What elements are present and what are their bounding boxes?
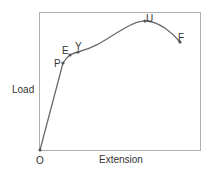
point-E	[68, 53, 71, 56]
x-axis-label: Extension	[99, 154, 143, 165]
origin-label: O	[36, 155, 44, 166]
plot-frame	[40, 13, 201, 151]
label-Y: Y	[75, 41, 82, 52]
point-P	[61, 61, 64, 64]
y-axis-label: Load	[12, 84, 34, 95]
load-extension-diagram: P E Y U F O Load Extension	[0, 0, 210, 172]
point-O	[38, 148, 41, 151]
label-F: F	[178, 32, 184, 43]
label-P: P	[54, 58, 61, 69]
label-U: U	[146, 13, 153, 24]
load-extension-curve	[40, 21, 180, 150]
label-E: E	[62, 45, 69, 56]
